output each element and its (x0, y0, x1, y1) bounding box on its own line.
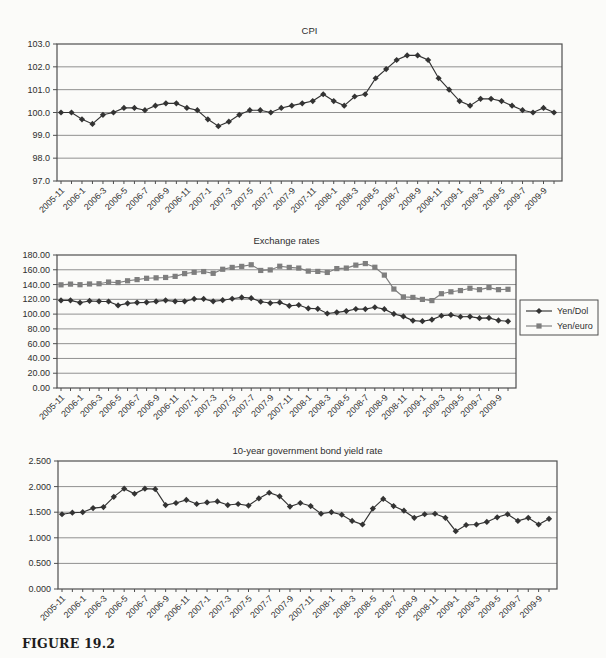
yen-euro-marker (439, 291, 444, 296)
yen-dol-marker (372, 304, 378, 310)
x-tick-label: 2009-5 (481, 185, 508, 212)
yen-euro-marker (154, 275, 159, 280)
yen-euro-marker (192, 270, 197, 275)
x-tick-label: 2005-11 (37, 185, 67, 215)
y-tick-label: 1.000 (28, 533, 51, 543)
y-tick-label: 80.00 (27, 324, 50, 334)
yen-euro-marker (353, 263, 358, 268)
series-line (61, 55, 554, 126)
10-year-government-bond-yield-rate-marker (297, 500, 303, 506)
yen-dol-marker (86, 298, 92, 304)
legend-label: Yen/euro (557, 321, 593, 331)
yen-dol-marker (201, 296, 207, 302)
10-year-government-bond-yield-rate-marker (194, 501, 200, 507)
x-tick-label: 2006-5 (103, 185, 130, 212)
yen-euro-marker (277, 264, 282, 269)
yen-dol-marker (419, 318, 425, 324)
10-year-government-bond-yield-rate-marker (359, 521, 365, 527)
cpi-marker (540, 105, 546, 111)
yen-euro-marker (458, 288, 463, 293)
chart-title: 10-year government bond yield rate (233, 445, 383, 456)
y-tick-label: 2.000 (28, 482, 51, 492)
yen-dol-marker (296, 302, 302, 308)
y-tick-label: 140.00 (22, 280, 50, 290)
y-tick-label: 0.000 (28, 584, 51, 594)
x-tick-label: 2006-3 (82, 185, 109, 212)
yen-euro-marker (58, 282, 63, 287)
cpi-marker (404, 52, 410, 58)
y-tick-label: 2.500 (28, 456, 51, 466)
yen-dol-marker (143, 299, 149, 305)
plot-area (58, 461, 557, 589)
10-year-government-bond-yield-rate-marker (536, 521, 542, 527)
cpi-marker (509, 103, 515, 109)
cpi-marker (268, 109, 274, 115)
y-tick-label: 160.00 (22, 265, 50, 275)
yen-euro-marker (115, 280, 120, 285)
y-tick-label: 103.0 (27, 39, 50, 49)
yen-dol-marker (315, 306, 321, 312)
yen-euro-marker (163, 275, 168, 280)
cpi-marker (184, 105, 190, 111)
figure-caption: FIGURE 19.2 (22, 636, 115, 651)
yen-dol-marker (77, 300, 83, 306)
yen-euro-marker (325, 270, 330, 275)
x-tick-label: 2005-11 (37, 392, 67, 422)
legend: Yen/DolYen/euro (520, 300, 598, 335)
cpi-marker (425, 57, 431, 63)
10-year-government-bond-yield-rate-marker (484, 519, 490, 525)
x-axis: 2005-112006-12006-32006-52006-72006-9200… (38, 589, 549, 623)
yen-euro-marker (496, 287, 501, 292)
10-year-government-bond-yield-rate-marker (183, 497, 189, 503)
yen-dol-marker (67, 297, 73, 303)
yen-euro-marker (467, 286, 472, 291)
10-year-government-bond-yield-rate-marker (80, 509, 86, 515)
x-tick-label: 2009-3 (460, 185, 487, 212)
yen-euro-marker (134, 277, 139, 282)
yen-euro-marker (306, 269, 311, 274)
y-tick-label: 60.00 (27, 339, 50, 349)
yen-dol-marker (391, 311, 397, 317)
yen-dol-marker (448, 312, 454, 318)
yen-euro-marker (315, 269, 320, 274)
x-axis: 2005-112006-12006-32006-52006-72006-9200… (37, 388, 508, 422)
10-year-government-bond-yield-rate-marker (235, 501, 241, 507)
series-10-year-government-bond-yield-rate (59, 486, 552, 535)
cpi-marker (173, 100, 179, 106)
cpi-marker (467, 103, 473, 109)
legend-marker (536, 323, 541, 328)
y-tick-label: 180.00 (22, 250, 50, 260)
10-year-government-bond-yield-rate-marker (432, 511, 438, 517)
series-yen-dol (58, 294, 511, 324)
x-tick-label: 2006-7 (124, 185, 151, 212)
chart-title: Exchange rates (253, 235, 319, 246)
yen-euro-marker (363, 261, 368, 266)
y-tick-label: 100.00 (22, 309, 50, 319)
legend-label: Yen/Dol (557, 306, 588, 316)
x-tick-label: 2008-3 (334, 185, 361, 212)
x-tick-label: 2008-5 (355, 185, 382, 212)
10-year-government-bond-yield-rate-marker (515, 518, 521, 524)
yen-euro-marker (220, 267, 225, 272)
yen-euro-marker (268, 267, 273, 272)
yen-euro-marker (144, 276, 149, 281)
yen-euro-marker (211, 271, 216, 276)
yen-euro-marker (505, 287, 510, 292)
exchange-rates-chart: Exchange rates0.0020.0040.0060.0080.0010… (0, 228, 606, 442)
cpi-marker (226, 119, 232, 125)
y-tick-label: 20.00 (27, 368, 50, 378)
x-tick-label: 2007-3 (208, 185, 235, 212)
cpi-marker (320, 91, 326, 97)
cpi-marker (310, 98, 316, 104)
x-axis: 2005-112006-12006-32006-52006-72006-9200… (37, 181, 554, 215)
yen-dol-marker (286, 303, 292, 309)
cpi-marker (415, 52, 421, 58)
10-year-government-bond-yield-rate-marker (69, 510, 75, 516)
x-tick-label: 2007-7 (250, 185, 277, 212)
yen-dol-marker (324, 310, 330, 316)
10-year-government-bond-yield-rate-marker (214, 498, 220, 504)
cpi-marker (131, 105, 137, 111)
y-tick-label: 98.0 (32, 153, 50, 163)
yen-euro-marker (125, 278, 130, 283)
yen-dol-marker (343, 308, 349, 314)
